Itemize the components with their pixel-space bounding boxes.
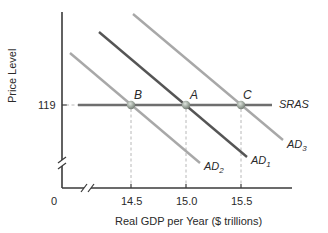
x-axis-label: Real GDP per Year ($ trillions) — [115, 216, 262, 227]
ad3-label-text: AD — [287, 138, 302, 150]
point-c — [237, 101, 245, 109]
sras-label: SRAS — [279, 99, 309, 110]
x-tick-label-15-5: 15.5 — [231, 196, 252, 207]
point-b-label: B — [134, 89, 142, 101]
ad3-curve — [133, 14, 283, 140]
point-b — [127, 101, 135, 109]
ad1-label-sub: 1 — [266, 160, 270, 169]
ad1-label-text: AD — [251, 154, 266, 166]
y-axis-break-gap — [58, 160, 66, 166]
point-a-label: A — [190, 89, 198, 101]
y-axis-label: Price Level — [6, 49, 18, 103]
x-axis-break-gap — [84, 184, 91, 192]
point-a — [182, 101, 190, 109]
ad2-label-sub: 2 — [219, 166, 223, 175]
ad3-label-sub: 3 — [302, 144, 306, 153]
ad2-label-text: AD — [204, 160, 219, 172]
ad1-curve — [99, 32, 247, 157]
x-tick-label-14-5: 14.5 — [121, 196, 142, 207]
ad2-label: AD2 — [204, 161, 224, 175]
x-tick-label-15-0: 15.0 — [176, 196, 197, 207]
point-c-label: C — [243, 89, 252, 101]
ad-sras-chart — [0, 0, 328, 233]
y-tick-label-119: 119 — [38, 100, 56, 111]
ad3-label: AD3 — [287, 139, 307, 153]
x-tick-label-0: 0 — [51, 196, 57, 207]
ad1-label: AD1 — [251, 155, 271, 169]
ad2-curve — [70, 53, 200, 163]
